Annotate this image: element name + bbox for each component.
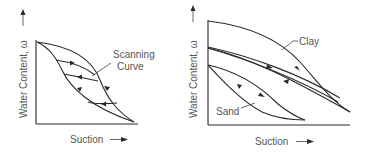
left-y-arrow-icon (21, 9, 26, 15)
left-y-axis-label: Water Content, ω (18, 40, 29, 118)
right-y-axis-label: Water Content, ω (188, 40, 199, 118)
left-arrow-icon (101, 102, 106, 107)
left-x-arrow-icon (121, 137, 128, 142)
clay-wetting-curve (208, 48, 350, 112)
right-x-arrow-icon (307, 139, 314, 144)
scanning-curve-label-line1: Scanning (113, 49, 155, 60)
clay-arrow-icon (283, 79, 289, 84)
sand-label: Sand (216, 106, 239, 117)
left-arrow-icon (70, 61, 75, 66)
left-panel: Water Content, ω Scanning Curve Suction (18, 9, 155, 145)
sand-arrow-icon (258, 93, 265, 98)
clay-label: Clay (299, 36, 319, 47)
sand-leader (241, 103, 255, 108)
clay-arrow-icon (294, 66, 300, 71)
hysteresis-diagram: Water Content, ω Scanning Curve Suction (0, 0, 366, 158)
clay-drying-curve (208, 21, 350, 112)
right-y-arrow-icon (191, 5, 196, 11)
left-arrow-icon (77, 75, 82, 80)
clay-inner-curve (208, 47, 340, 98)
left-x-axis-label: Suction (70, 134, 103, 145)
sand-arrow-icon (237, 84, 242, 89)
right-panel: Water Content, ω Clay Sand Suction (188, 5, 350, 147)
scanning-curve-label-line2: Curve (117, 61, 144, 72)
right-x-axis-label: Suction (255, 136, 288, 147)
clay-leader (282, 41, 293, 50)
